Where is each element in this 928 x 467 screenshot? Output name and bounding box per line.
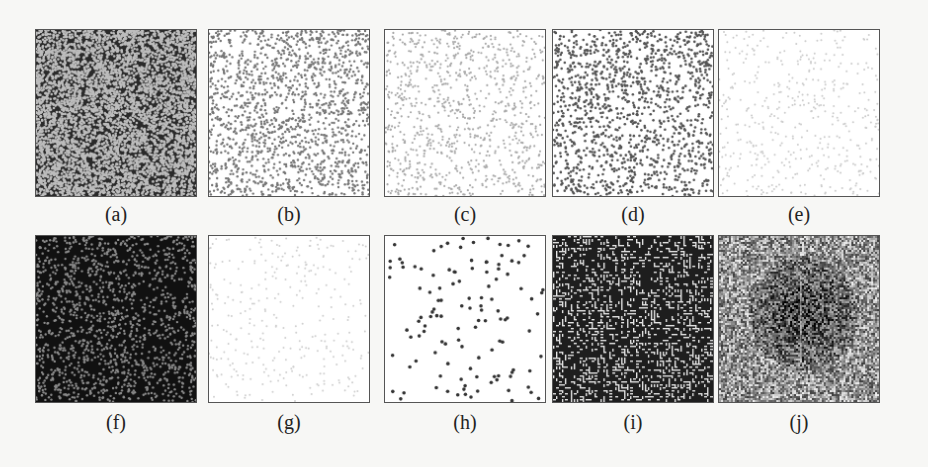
panel-image-e <box>719 30 879 196</box>
panel-label-c: (c) <box>384 203 546 226</box>
panel-image-h <box>385 236 545 402</box>
panel-i <box>552 235 714 403</box>
panel-d <box>552 29 714 197</box>
panel-a <box>35 29 197 197</box>
panel-c <box>384 29 546 197</box>
panel-h <box>384 235 546 403</box>
panel-b <box>208 29 370 197</box>
panel-e <box>718 29 880 197</box>
panel-image-c <box>385 30 545 196</box>
panel-label-i: (i) <box>552 411 714 434</box>
panel-label-h: (h) <box>384 411 546 434</box>
panel-image-b <box>209 30 369 196</box>
panel-image-d <box>553 30 713 196</box>
panel-label-e: (e) <box>718 203 880 226</box>
panel-image-j <box>719 236 879 402</box>
panel-label-j: (j) <box>718 411 880 434</box>
panel-image-g <box>209 236 369 402</box>
panel-image-f <box>36 236 196 402</box>
panel-g <box>208 235 370 403</box>
panel-image-i <box>553 236 713 402</box>
panel-label-d: (d) <box>552 203 714 226</box>
panel-label-b: (b) <box>208 203 370 226</box>
panel-image-a <box>36 30 196 196</box>
panel-j <box>718 235 880 403</box>
panel-label-g: (g) <box>208 411 370 434</box>
panel-label-f: (f) <box>35 411 197 434</box>
panel-label-a: (a) <box>35 203 197 226</box>
panel-f <box>35 235 197 403</box>
